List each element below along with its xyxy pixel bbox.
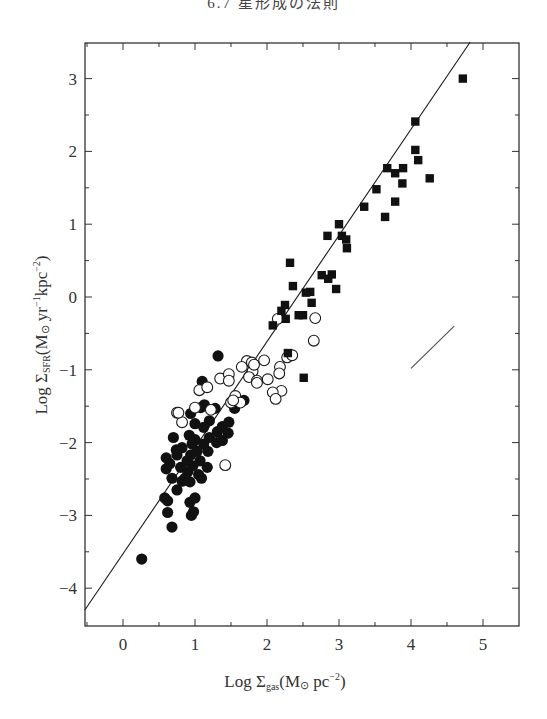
filled-circle-marker [168, 432, 179, 443]
fit-line [85, 42, 470, 610]
y-axis-label: Log ΣSFR(M⊙ yr−1kpc−2) [31, 255, 52, 414]
y-tick-label: 0 [69, 288, 78, 307]
filled-circle-marker [171, 484, 182, 495]
y-tick-label: 3 [69, 70, 78, 89]
filled-square-marker [381, 213, 389, 221]
filled-circle-marker [162, 507, 173, 518]
filled-square-marker [391, 169, 399, 177]
filled-square-marker [269, 321, 277, 329]
plot-frame [85, 43, 519, 626]
open-circle-marker [223, 375, 234, 386]
filled-square-marker [391, 197, 399, 205]
filled-circle-marker [189, 418, 200, 429]
y-tick-label: −4 [59, 579, 78, 598]
filled-square-marker [459, 74, 467, 82]
filled-square-marker [372, 185, 380, 193]
filled-circle-marker [212, 350, 223, 361]
x-axis-label: Log Σgas(M⊙ pc−2) [224, 671, 345, 692]
filled-square-marker [300, 374, 308, 382]
open-circle-marker [173, 407, 184, 418]
series-filled-square [269, 74, 467, 382]
open-circle-marker [205, 404, 216, 415]
open-circle-marker [308, 335, 319, 346]
filled-circle-marker [189, 492, 200, 503]
filled-square-marker [289, 282, 297, 290]
filled-circle-marker [166, 521, 177, 532]
open-circle-marker [259, 355, 270, 366]
x-tick-label: 3 [335, 635, 344, 654]
filled-square-marker [335, 220, 343, 228]
filled-square-marker [299, 311, 307, 319]
x-tick-label: 2 [263, 635, 272, 654]
filled-square-marker [411, 146, 419, 154]
filled-circle-marker [189, 434, 200, 445]
schmidt-fit-line [85, 42, 470, 610]
open-circle-marker [252, 378, 263, 389]
filled-square-marker [399, 164, 407, 172]
slope-reference-segment [411, 326, 454, 368]
axis-ticks: 0123453210−1−2−3−4 [59, 43, 519, 654]
filled-square-marker [332, 285, 340, 293]
y-tick-label: −3 [59, 506, 77, 525]
filled-square-marker [383, 164, 391, 172]
y-tick-label: 2 [69, 142, 78, 161]
y-tick-label: 1 [69, 215, 78, 234]
open-circle-marker [310, 313, 321, 324]
filled-circle-marker [194, 455, 205, 466]
filled-square-marker [277, 307, 285, 315]
plot-border [85, 43, 519, 626]
filled-square-marker [323, 232, 331, 240]
y-tick-label: −1 [59, 361, 77, 380]
filled-square-marker [342, 235, 350, 243]
filled-square-marker [426, 174, 434, 182]
filled-square-marker [360, 203, 368, 211]
filled-circle-marker [223, 417, 234, 428]
filled-circle-marker [204, 415, 215, 426]
x-tick-label: 1 [191, 635, 200, 654]
scatter-chart: 0123453210−1−2−3−4 Log Σgas(M⊙ pc−2)Log … [0, 0, 547, 719]
filled-square-marker [324, 275, 332, 283]
open-circle-marker [274, 368, 285, 379]
filled-circle-marker [171, 444, 182, 455]
open-circle-marker [249, 359, 260, 370]
filled-square-marker [414, 156, 422, 164]
x-tick-label: 4 [407, 635, 416, 654]
open-circle-marker [262, 374, 273, 385]
x-tick-label: 5 [479, 635, 488, 654]
filled-square-marker [343, 244, 351, 252]
filled-square-marker [286, 259, 294, 267]
filled-square-marker [307, 299, 315, 307]
open-circle-marker [236, 361, 247, 372]
x-tick-label: 0 [119, 635, 128, 654]
filled-square-marker [282, 315, 290, 323]
data-points [136, 74, 467, 564]
open-circle-marker [202, 382, 213, 393]
filled-circle-marker [166, 473, 177, 484]
filled-square-marker [398, 179, 406, 187]
open-circle-marker [190, 402, 201, 413]
filled-square-marker [284, 349, 292, 357]
filled-circle-marker [161, 452, 172, 463]
filled-circle-marker [188, 506, 199, 517]
filled-square-marker [411, 117, 419, 125]
open-circle-marker [220, 460, 231, 471]
filled-circle-marker [223, 428, 234, 439]
filled-square-marker [306, 288, 314, 296]
filled-circle-marker [159, 492, 170, 503]
y-tick-label: −2 [59, 434, 77, 453]
filled-circle-marker [136, 553, 147, 564]
open-circle-marker [228, 395, 239, 406]
open-circle-marker [270, 394, 281, 405]
